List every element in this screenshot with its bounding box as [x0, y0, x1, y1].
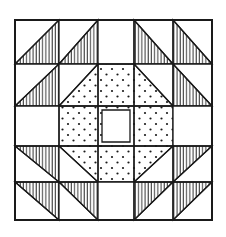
center-square — [102, 110, 130, 142]
quilt-block-diagram — [0, 0, 226, 237]
dotted-square — [98, 146, 134, 182]
plain-square — [98, 182, 134, 220]
quilt-cells — [15, 20, 212, 220]
plain-square — [15, 106, 59, 146]
plain-square — [98, 20, 134, 64]
dotted-square — [98, 64, 134, 106]
plain-square — [173, 106, 212, 146]
dotted-square — [59, 106, 98, 146]
dotted-square — [134, 106, 173, 146]
